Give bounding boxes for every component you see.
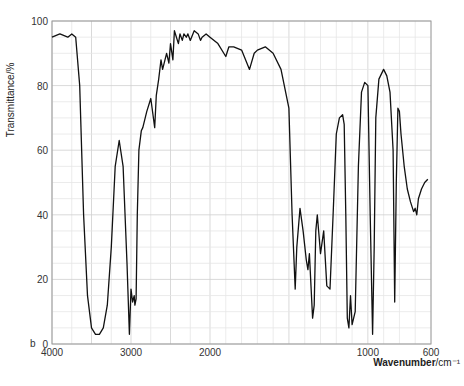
ir-spectrum-chart: 020406080100 4000300020001000600 Transmi… bbox=[0, 0, 464, 386]
x-tick-label: 2000 bbox=[199, 347, 222, 358]
plot-grid bbox=[52, 21, 431, 344]
x-tick-label: 3000 bbox=[120, 347, 143, 358]
y-tick-label: 80 bbox=[37, 81, 49, 92]
x-axis-title-main: Wavenumber bbox=[373, 357, 436, 368]
y-tick-label: 100 bbox=[31, 16, 48, 27]
x-tick-label: 4000 bbox=[41, 347, 64, 358]
x-axis-title: Wavenumber/cm⁻¹ bbox=[373, 357, 461, 368]
corner-label: b bbox=[30, 338, 36, 349]
y-axis-title: Transmittance/% bbox=[5, 63, 16, 138]
y-tick-label: 20 bbox=[37, 274, 49, 285]
x-axis-title-unit: /cm⁻¹ bbox=[436, 357, 461, 368]
y-tick-label: 40 bbox=[37, 210, 49, 221]
y-axis-ticks: 020406080100 bbox=[31, 16, 48, 350]
y-tick-label: 60 bbox=[37, 145, 49, 156]
